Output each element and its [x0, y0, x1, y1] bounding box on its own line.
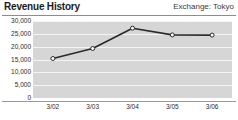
- header-divider: [2, 15, 236, 16]
- series-line: [53, 28, 212, 58]
- x-tick-label: 3/05: [166, 103, 179, 110]
- revenue-history-widget: Revenue History Exchange: Tokyo 05,00010…: [0, 0, 238, 120]
- y-tick-label: 20,000: [11, 43, 31, 50]
- data-point-marker: [91, 47, 95, 51]
- x-tick-label: 3/06: [206, 103, 219, 110]
- exchange-label: Exchange: Tokyo: [173, 2, 234, 11]
- data-point-marker: [170, 33, 174, 37]
- data-point-marker: [131, 26, 135, 30]
- x-tick-label: 3/03: [86, 103, 99, 110]
- x-tick-label: 3/04: [126, 103, 139, 110]
- y-tick-label: 15,000: [11, 56, 31, 63]
- y-tick-label: 0: [27, 94, 31, 101]
- series-revenue: [33, 21, 232, 98]
- y-tick-label: 5,000: [15, 81, 31, 88]
- x-axis-labels: 3/023/033/043/053/06: [33, 103, 232, 117]
- widget-header: Revenue History Exchange: Tokyo: [0, 0, 238, 15]
- data-point-marker: [51, 57, 55, 61]
- y-tick-label: 30,000: [11, 17, 31, 24]
- y-axis-labels: 05,00010,00015,00020,00025,00030,000: [0, 17, 31, 102]
- widget-bottom-divider: [2, 101, 236, 102]
- y-tick-label: 10,000: [11, 68, 31, 75]
- page-title: Revenue History: [4, 1, 80, 12]
- plot-area: [33, 21, 232, 98]
- revenue-line-chart: 05,00010,00015,00020,00025,00030,000 3/0…: [0, 17, 238, 120]
- data-point-marker: [210, 33, 214, 37]
- y-tick-label: 25,000: [11, 30, 31, 37]
- x-tick-label: 3/02: [47, 103, 60, 110]
